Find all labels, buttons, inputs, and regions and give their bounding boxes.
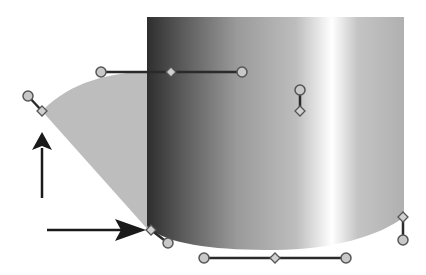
anchor-point-diamond[interactable] [270, 253, 280, 263]
control-point-handle[interactable] [163, 238, 173, 248]
control-point-handle[interactable] [96, 67, 106, 77]
control-point-handle[interactable] [341, 253, 351, 263]
wedge-shape [42, 72, 150, 232]
control-point-handle[interactable] [23, 91, 33, 101]
diagram-canvas [0, 0, 426, 275]
arrow-up-icon [32, 132, 52, 198]
arrow-right-icon [47, 219, 146, 241]
gradient-shape[interactable] [147, 17, 404, 250]
control-point-handle[interactable] [295, 85, 305, 95]
control-point-handle[interactable] [398, 235, 408, 245]
control-point-handle[interactable] [237, 67, 247, 77]
control-point-handle[interactable] [199, 253, 209, 263]
